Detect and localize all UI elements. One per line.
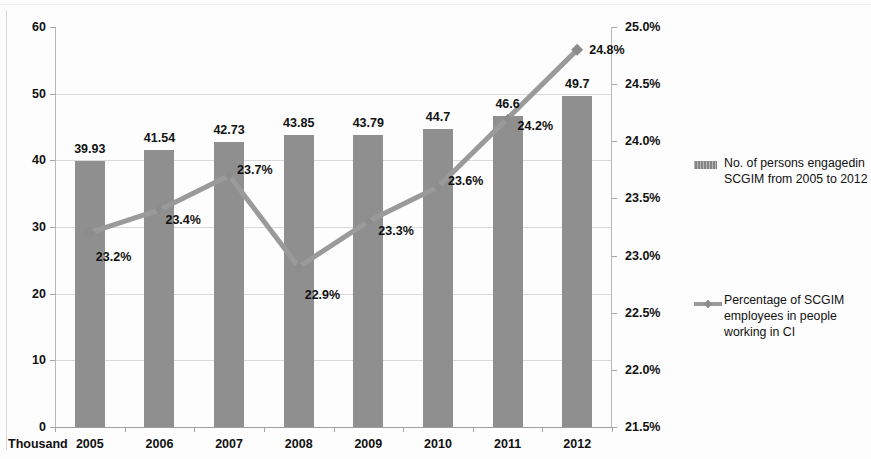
bar[interactable] <box>493 116 523 427</box>
x-axis-label: 2008 <box>285 437 313 451</box>
y-axis-right-tick <box>612 313 617 314</box>
bar-value-label: 39.93 <box>74 142 105 156</box>
x-axis-tick <box>264 427 265 432</box>
line-value-label: 23.6% <box>448 174 483 188</box>
y-axis-right-tick-label: 22.0% <box>625 363 660 377</box>
y-axis-right-tick <box>612 256 617 257</box>
x-axis-tick <box>542 427 543 432</box>
y-axis-left-tick-label: 10 <box>32 353 46 367</box>
y-axis-left-tick <box>50 160 55 161</box>
x-axis-tick <box>125 427 126 432</box>
y-axis-left-tick <box>50 360 55 361</box>
gridline <box>56 227 611 228</box>
x-axis-tick <box>194 427 195 432</box>
line-value-label: 23.2% <box>96 250 131 264</box>
chart-legend: No. of persons engagedinSCGIM from 2005 … <box>694 155 870 340</box>
scan-artifact-left-line <box>6 10 7 450</box>
legend-line-line1: Percentage of SCGIM <box>724 293 844 307</box>
y-axis-left-tick-label: 50 <box>32 87 46 101</box>
legend-line-line2: employees in people <box>724 309 837 323</box>
x-axis-label: 2007 <box>215 437 243 451</box>
y-axis-right-tick-label: 25.0% <box>625 20 660 34</box>
y-axis-right-tick-label: 21.5% <box>625 420 660 434</box>
y-axis-right-tick <box>612 84 617 85</box>
x-axis-tick <box>55 427 56 432</box>
y-axis-right-tick-label: 23.0% <box>625 249 660 263</box>
gridline <box>56 94 611 95</box>
x-axis-tick <box>403 427 404 432</box>
bar-value-label: 42.73 <box>213 123 244 137</box>
line-value-label: 23.4% <box>165 213 200 227</box>
bar-value-label: 49.7 <box>565 77 589 91</box>
x-axis-label: 2009 <box>354 437 382 451</box>
y-axis-left-tick-label: 60 <box>32 20 46 34</box>
x-axis-label: 2011 <box>494 437 521 451</box>
x-axis-tick <box>473 427 474 432</box>
y-axis-left-tick-label: 40 <box>32 153 46 167</box>
x-axis-label: 2010 <box>424 437 452 451</box>
chart-figure: 0102030405060 21.5%22.0%22.5%23.0%23.5%2… <box>0 0 871 459</box>
y-axis-left-tick <box>50 227 55 228</box>
legend-bar-swatch-icon <box>694 161 717 169</box>
bar[interactable] <box>284 135 314 427</box>
y-axis-left-tick <box>50 94 55 95</box>
legend-bar-line2: SCGIM from 2005 to 2012 <box>724 172 868 186</box>
bar[interactable] <box>144 150 174 427</box>
legend-item-line-label: Percentage of SCGIMemployees in peoplewo… <box>724 292 870 340</box>
bar-value-label: 43.85 <box>283 116 314 130</box>
bar[interactable] <box>562 96 592 427</box>
bar[interactable] <box>75 161 105 427</box>
y-axis-right-tick <box>612 141 617 142</box>
x-axis-label: 2006 <box>146 437 174 451</box>
line-marker[interactable] <box>571 44 583 56</box>
legend-item-bar-series[interactable]: No. of persons engagedinSCGIM from 2005 … <box>694 155 870 187</box>
y-axis-right-tick <box>612 370 617 371</box>
y-axis-left-tick-label: 20 <box>32 287 46 301</box>
legend-item-bar-label: No. of persons engagedinSCGIM from 2005 … <box>724 155 870 187</box>
gridline <box>56 360 611 361</box>
y-axis-left-tick <box>50 294 55 295</box>
legend-line-line3: working in CI <box>724 325 795 339</box>
x-axis-tick <box>612 427 613 432</box>
y-axis-right-tick-label: 24.0% <box>625 134 660 148</box>
y-axis-left-tick-label: 30 <box>32 220 46 234</box>
y-axis-right-tick <box>612 27 617 28</box>
y-axis-right-tick-label: 23.5% <box>625 191 660 205</box>
x-axis-label: 2005 <box>76 437 104 451</box>
axis-unit-label: Thousand <box>8 437 68 451</box>
bar-value-label: 41.54 <box>144 131 175 145</box>
y-axis-left-tick <box>50 27 55 28</box>
legend-line-swatch-icon <box>694 296 722 308</box>
legend-bar-line1: No. of persons engagedin <box>724 156 865 170</box>
y-axis-left-tick-label: 0 <box>39 420 46 434</box>
line-value-label: 24.8% <box>589 43 624 57</box>
right-axis-line <box>611 27 612 427</box>
y-axis-right-tick <box>612 198 617 199</box>
plot-area: 0102030405060 21.5%22.0%22.5%23.0%23.5%2… <box>55 27 612 427</box>
bar-value-label: 44.7 <box>426 110 450 124</box>
bar[interactable] <box>214 142 244 427</box>
gridline <box>56 160 611 161</box>
x-axis-tick <box>334 427 335 432</box>
line-value-label: 23.7% <box>237 163 272 177</box>
scan-artifact-top-line <box>0 4 871 5</box>
y-axis-right-tick-label: 22.5% <box>625 306 660 320</box>
x-axis-label: 2012 <box>563 437 591 451</box>
legend-item-line-series[interactable]: Percentage of SCGIMemployees in peoplewo… <box>694 292 870 340</box>
bar[interactable] <box>353 135 383 427</box>
y-axis-right-tick-label: 24.5% <box>625 77 660 91</box>
line-value-label: 24.2% <box>518 119 553 133</box>
bar-value-label: 46.6 <box>495 97 519 111</box>
line-value-label: 23.3% <box>378 224 413 238</box>
line-value-label: 22.9% <box>305 288 340 302</box>
bar-value-label: 43.79 <box>353 116 384 130</box>
